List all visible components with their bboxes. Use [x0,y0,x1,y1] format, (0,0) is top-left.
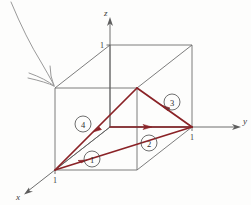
segment-4-number: 4 [81,120,86,130]
path-segment-3-arrowhead [161,105,170,111]
annotation-arrow-shaft [11,2,54,85]
segment-number-1: 1 [84,151,100,167]
segment-number-4: 4 [75,116,91,132]
x-axis-label: x [15,192,20,202]
cube-edge-depth-top-right [137,45,192,88]
segment-1-number: 1 [90,155,94,165]
x-axis-tick-label-1: 1 [53,176,57,185]
segment-number-3: 3 [164,94,180,110]
annotation-arrow-barb-middle [28,78,54,86]
cube-edge-depth-top-left [55,45,110,88]
coordinate-cube-figure: z 1 y 1 x 1 1 2 [0,0,251,205]
x-axis-line [28,127,110,191]
figure-container: z 1 y 1 x 1 1 2 [0,0,251,205]
segment-2-number: 2 [147,139,151,149]
segment-3-number: 3 [170,98,174,108]
z-axis-tick-label-1: 1 [100,41,104,50]
cube-wireframe [55,45,192,170]
z-axis-label: z [103,8,108,18]
handdrawn-annotation-arrow [11,2,54,86]
y-axis-tick-label-1: 1 [190,133,194,142]
cube-edge-depth-bottom-right [137,127,192,170]
y-axis-label: y [242,116,247,126]
